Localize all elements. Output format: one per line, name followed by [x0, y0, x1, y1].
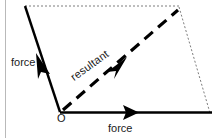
force-left-label: force	[11, 57, 35, 68]
resultant-vector-line	[63, 10, 178, 110]
vector-diagram	[0, 0, 222, 138]
force-bottom-label: force	[108, 123, 132, 134]
figure-canvas: force force O resultant	[0, 0, 222, 138]
right-guide-line	[179, 7, 210, 113]
origin-label: O	[57, 113, 66, 124]
